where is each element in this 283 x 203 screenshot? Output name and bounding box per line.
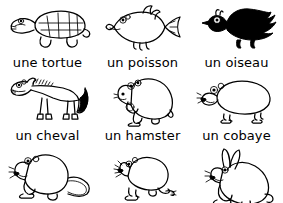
animal-label: un oiseau xyxy=(204,55,268,70)
mouse-icon xyxy=(95,148,190,203)
animal-grid: une tortue un poisson xyxy=(0,0,283,203)
animal-label: un cobaye xyxy=(202,128,271,143)
animal-card-hamster: un hamster xyxy=(95,73,190,146)
animal-card-mouse xyxy=(95,146,190,203)
hamster-icon xyxy=(95,75,190,125)
animal-card-rabbit xyxy=(190,146,283,203)
animal-vocabulary-worksheet: une tortue un poisson xyxy=(0,0,283,203)
animal-card-turtle: une tortue xyxy=(0,0,95,73)
rat-icon xyxy=(0,148,95,203)
guinea-pig-icon xyxy=(190,75,283,125)
horse-icon xyxy=(0,75,95,125)
animal-label: une tortue xyxy=(13,55,82,70)
animal-card-bird: un oiseau xyxy=(190,0,283,73)
animal-label: un poisson xyxy=(107,55,178,70)
bird-icon xyxy=(190,2,283,52)
fish-icon xyxy=(95,2,190,52)
animal-card-guinea-pig: un cobaye xyxy=(190,73,283,146)
rabbit-icon xyxy=(190,148,283,203)
animal-label: un hamster xyxy=(105,128,181,143)
animal-card-fish: un poisson xyxy=(95,0,190,73)
animal-card-horse: un cheval xyxy=(0,73,95,146)
turtle-icon xyxy=(0,2,95,52)
animal-label: un cheval xyxy=(15,128,79,143)
animal-card-rat xyxy=(0,146,95,203)
